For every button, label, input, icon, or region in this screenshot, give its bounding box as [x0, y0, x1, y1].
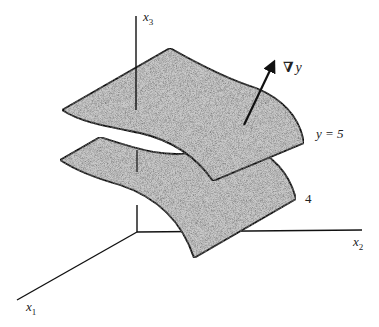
lower-surface-label: 4	[305, 191, 312, 206]
upper-surface-label: y = 5	[314, 126, 344, 141]
x1-axis	[17, 232, 137, 300]
x2-axis	[137, 230, 362, 232]
x3-axis-label: x3	[142, 9, 154, 27]
gradient-label: ∇y	[283, 60, 303, 75]
x2-axis-label: x2	[352, 234, 363, 252]
level-surfaces-diagram: x3 x2 x1 ∇y y = 5 4	[0, 0, 379, 327]
x1-axis-label: x1	[25, 299, 36, 317]
